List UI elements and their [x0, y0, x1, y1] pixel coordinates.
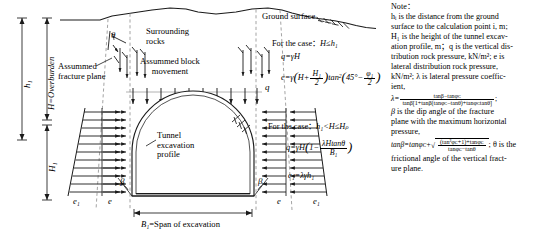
beta-angle-right-label: β — [258, 176, 262, 186]
lateral-e1-right-label: e₁ — [313, 197, 320, 207]
span-label: B₁=Span of excavation — [141, 220, 220, 230]
note-line: ation profile, m；q is the vertical dis- — [391, 42, 539, 52]
frac-lambda-B1: λHtanθB₁ — [320, 140, 347, 157]
note-line: ure plane. — [391, 164, 539, 174]
case1-header: For the case：H≤h₁ — [272, 36, 338, 48]
paren-close-2: ) — [376, 72, 380, 82]
case2-q-formula: q=γH(1−λHtanθB₁) — [286, 140, 352, 157]
note-line: ient, — [391, 82, 539, 92]
tanbeta-formula: tanβ=tanφᴄ+√(tan²φᴄ+1)+tanφᴄtanφᴄ−tanθ; … — [391, 138, 539, 152]
note-line: pressure, — [391, 127, 539, 137]
span-dimension-line — [134, 209, 252, 217]
case3-e1-formula: e₁=λγh₁ — [288, 171, 314, 180]
case2-header: For the case：h₁<H≤Hₚ — [268, 119, 349, 131]
assumed-block-movement-label: Assummed block movement — [140, 57, 200, 76]
note-line: lateral distribution rock pressure, — [391, 62, 539, 72]
note-line: hᵢ is the distance from the ground — [391, 12, 539, 22]
dim-label-H1: H₁ — [47, 172, 57, 182]
frac-phi-2: φ₁2 — [364, 70, 375, 87]
dim-label-h1: h₁ — [22, 88, 30, 98]
ground-surface-label: Ground surface — [262, 12, 315, 22]
lateral-e-right-label: e — [277, 197, 281, 207]
lateral-e1-left-label: e₁ — [73, 197, 80, 207]
frac-tanbeta: (tan²φᴄ+1)+tanφᴄtanφᴄ−tanθ — [438, 139, 486, 152]
note-line: tribution rock pressure, kN/m²; e is — [391, 52, 539, 62]
note-line: plane with the maximum horizontal — [391, 117, 539, 127]
note-block: Note： hᵢ is the distance from the ground… — [391, 2, 539, 174]
case1-q-formula: q=γH — [281, 52, 300, 61]
tunnel-profile-label: Tunnel excavation profile — [157, 131, 194, 160]
note-line: frictional angle of the vertical fract- — [391, 154, 539, 164]
note-title: Note： — [391, 2, 539, 12]
dimension-h1 — [17, 18, 27, 140]
lambda-formula: λ=tanβ−tanφᴄtanβ[1+tanβ(tanφᴄ−tanθ)+tanφ… — [391, 93, 539, 106]
surrounding-rocks-label: Surrounding rocks — [146, 27, 189, 46]
figure-canvas: h₁ H=Overburden H₁ Ground surface Surrou… — [0, 0, 540, 237]
theta-angle-label: θ — [111, 30, 115, 40]
dim-label-H: H=Overburden — [47, 110, 100, 120]
note-line: ββ is the dip angle of the fracture is t… — [391, 107, 539, 117]
paren-close-3: ) — [348, 142, 352, 152]
case1-e-formula: e=γ(H+H₁2)tan2(45°−φ₁2) — [281, 70, 381, 87]
beta-angle-left-label: β — [120, 176, 124, 186]
paren-close-1: ) — [324, 72, 328, 82]
assumed-fracture-plane-label: Assummed fracture plane — [58, 62, 105, 81]
note-line: H₁ is the height of the tunnel excav- — [391, 32, 539, 42]
paren-open-2: ( — [342, 72, 346, 82]
note-line: surface to the calculation point i, m; — [391, 22, 539, 32]
paren-open-3: ( — [305, 142, 309, 152]
vertical-load-label: q — [265, 82, 270, 92]
frac-lambda: tanβ−tanφᴄtanβ[1+tanβ(tanφᴄ−tanθ)+tanφᴄt… — [400, 93, 494, 106]
paren-open-1: ( — [294, 72, 298, 82]
note-line: kN/m²; λ is lateral pressure coeffic- — [391, 72, 539, 82]
lateral-e-left-label: e — [108, 197, 112, 207]
radicand: (tan²φᴄ+1)+tanφᴄtanφᴄ−tanθ — [435, 138, 489, 152]
frac-H1-2: H₁2 — [310, 70, 322, 87]
